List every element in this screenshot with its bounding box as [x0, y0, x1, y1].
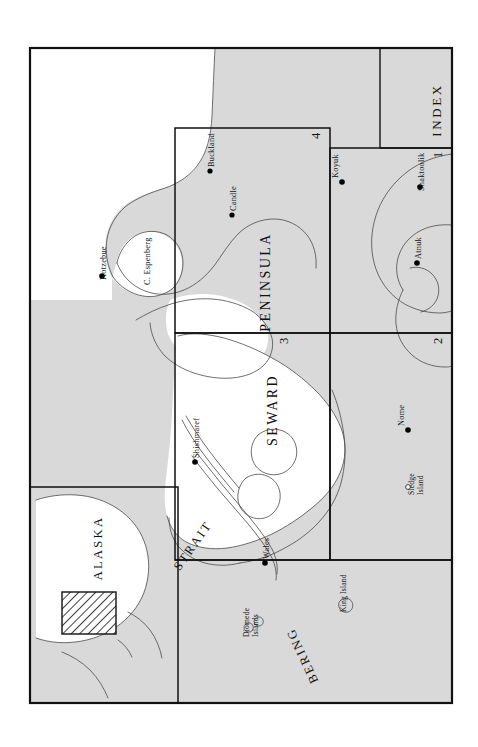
index-number-3: 3 — [277, 338, 291, 344]
label-sledge-island: Sledge Island — [407, 473, 425, 495]
marker-buckland — [207, 168, 212, 173]
index-number-4: 4 — [309, 132, 323, 139]
label-buckland: Buckland — [207, 133, 216, 167]
label-king-island: King Island — [339, 574, 348, 612]
study-area-hatch — [62, 592, 116, 634]
label-shaktoolik: Shaktoolik — [417, 152, 426, 191]
label-peninsula: PENINSULA — [258, 232, 273, 331]
svg-text:Islands: Islands — [251, 614, 260, 637]
marker-koyuk — [339, 179, 345, 185]
marker-candle — [229, 212, 234, 217]
marker-atnuk — [414, 260, 420, 266]
marker-nome — [405, 427, 411, 433]
svg-text:Sledge: Sledge — [407, 473, 416, 495]
marker-wales — [262, 560, 268, 566]
index-number-2: 2 — [431, 338, 445, 344]
label-shishmaref: Shishmaref — [192, 418, 201, 458]
svg-text:Diomede: Diomede — [242, 607, 251, 637]
index-map-figure: INDEX 1 2 3 4 PENINSULA SEWARD STRAIT BE… — [0, 0, 478, 747]
label-nome: Nome — [397, 405, 406, 426]
label-kotzebue: Kotzebue — [99, 246, 108, 280]
index-title: INDEX — [429, 83, 444, 136]
label-wales: Wales — [262, 538, 271, 559]
label-koyuk: Koyuk — [331, 154, 340, 178]
label-candle: Candle — [229, 186, 238, 211]
label-seward: SEWARD — [265, 374, 280, 446]
index-number-1: 1 — [431, 152, 445, 158]
svg-text:Island: Island — [416, 475, 425, 495]
label-espenberg: C. Espenberg — [143, 237, 152, 285]
label-atnuk: Atnuk — [414, 236, 423, 259]
label-alaska: ALASKA — [91, 516, 105, 581]
map-canvas: INDEX 1 2 3 4 PENINSULA SEWARD STRAIT BE… — [0, 0, 478, 747]
marker-shishmaref — [192, 459, 198, 465]
